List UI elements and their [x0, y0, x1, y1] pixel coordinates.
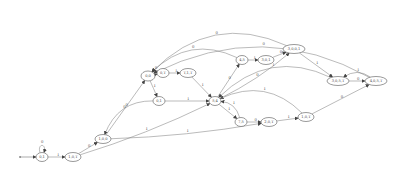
state-q14: 3,0,5,T	[327, 77, 349, 86]
edge-label: 1	[288, 114, 290, 119]
state-q2: 1,0,0	[95, 135, 111, 144]
state-q11: 7,5	[235, 118, 247, 127]
state-q15: 4,0,5,T	[365, 77, 387, 86]
edge-label: 0	[229, 75, 232, 80]
edge-label: 0	[255, 117, 258, 122]
edge-label: 1	[146, 126, 148, 131]
edge-q14-q10: 1	[219, 62, 331, 97]
edge-q6-q10: 1	[192, 77, 212, 97]
edge-label: 0	[262, 41, 265, 46]
edge-q1-q2: 0	[78, 142, 97, 153]
state-q10: 5,4	[209, 97, 221, 106]
state-q5: 0,1	[153, 97, 165, 106]
start-point	[19, 156, 21, 158]
state-q0: 0,1	[36, 153, 48, 162]
state-q3: 0,0	[141, 71, 155, 81]
state-label: 4,0,5,T	[370, 79, 383, 83]
edge-label: 1	[187, 96, 189, 101]
edge-q4-q6: 1	[169, 68, 180, 74]
state-label: 3,0,5,T	[332, 79, 345, 83]
state-label: 5,4	[212, 99, 218, 103]
edge-q0-q1: 1	[48, 152, 65, 158]
state-q4: 0,T	[157, 69, 169, 78]
edge-q10-q11: 1	[219, 104, 237, 118]
edge-q5-q10: 1	[165, 96, 209, 102]
state-q9: 3,0,0,1	[283, 45, 305, 54]
state-label: 2,0,T	[264, 120, 274, 124]
edge-label: 1	[316, 60, 318, 65]
state-label: 1,0,0	[98, 137, 108, 141]
edge-label: 1	[175, 68, 177, 73]
state-diagram: 010101001101101001011011001100 0,11,0,T1…	[0, 0, 406, 173]
edge-q13-q15: 0	[312, 85, 369, 114]
edges-layer: 010101001101101001011011001100	[19, 30, 370, 158]
state-label: 0,1	[39, 155, 45, 159]
edge-label: 1	[228, 106, 230, 111]
state-q7: 4,5	[236, 56, 248, 65]
edge-label: 1	[154, 83, 156, 88]
state-label: T,1,T	[184, 71, 193, 75]
edge-q11-q12: 0	[247, 117, 261, 123]
edge-q10-q7: 0	[218, 64, 240, 97]
edge-q14-q15: 0	[349, 76, 365, 82]
state-q6: T,1,T	[180, 69, 196, 78]
edge-q9-q14: 1	[299, 53, 332, 77]
edge-label: 0	[256, 72, 259, 77]
state-label: 7,5	[238, 120, 244, 124]
edge-label: 1	[264, 86, 266, 91]
edge-label: 1	[186, 128, 188, 133]
edge-q12-q13: 1	[277, 114, 298, 121]
state-label: 3,0,1	[261, 58, 270, 62]
edge-label: 0	[41, 139, 44, 144]
edge-label: 1	[254, 55, 256, 60]
state-label: 1,0,T	[68, 155, 78, 159]
state-q1: 1,0,T	[65, 153, 81, 162]
state-label: 1,0,T	[301, 115, 311, 119]
state-q13: 1,0,T	[298, 113, 314, 122]
state-q12: 2,0,T	[261, 118, 277, 127]
edge-label: 1	[202, 82, 204, 87]
state-label: 0,0	[145, 74, 151, 78]
edge-q1-q10: 1	[80, 103, 210, 154]
edge-q7-q8: 1	[248, 55, 258, 61]
edge-q3-q5: 1	[150, 81, 157, 97]
edge-label: 1	[233, 100, 235, 105]
state-label: 3,0,0,1	[288, 47, 301, 51]
state-q8: 3,0,1	[258, 56, 274, 65]
edge-q0-q0: 0	[39, 139, 44, 153]
edge-label: 0	[357, 76, 360, 81]
edge-label: 0	[215, 30, 218, 35]
edge-label: 0	[192, 44, 195, 49]
state-label: 4,5	[239, 58, 245, 62]
edge-label: 1	[57, 152, 59, 157]
state-label: 0,1	[156, 99, 162, 103]
state-label: 0,T	[160, 71, 166, 75]
